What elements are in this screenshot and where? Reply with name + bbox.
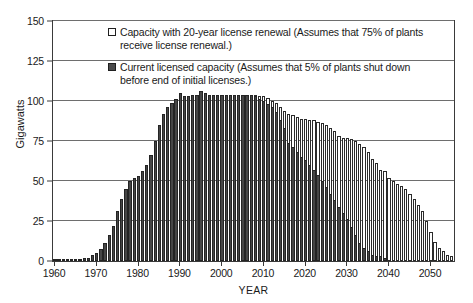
bar-current: [296, 152, 299, 261]
bar-current: [287, 143, 290, 261]
bar-renewal: [387, 178, 390, 261]
bar-renewal: [450, 256, 453, 261]
legend-renewal-line1: Capacity with 20-year license renewal (A…: [120, 26, 393, 38]
bar-current: [266, 104, 269, 261]
bar-current: [83, 258, 86, 261]
bar-current: [183, 96, 186, 261]
filled-square-icon: [108, 63, 116, 71]
bar-current: [241, 95, 244, 261]
bar-renewal: [396, 184, 399, 261]
bar-renewal: [433, 242, 436, 261]
x-tick-mark: [138, 262, 139, 266]
bar-current: [124, 189, 127, 261]
bar-current: [133, 178, 136, 261]
bar-current: [66, 259, 69, 261]
bar-current: [312, 170, 315, 261]
bar-current: [354, 235, 357, 261]
bar-current: [237, 95, 240, 261]
bar-current: [62, 259, 65, 261]
bar-current: [321, 181, 324, 261]
bar-current: [112, 226, 115, 261]
bar-renewal: [379, 170, 382, 261]
y-tick-label: 0: [38, 255, 44, 267]
bar-current: [346, 219, 349, 261]
bar-current: [87, 258, 90, 261]
bar-current: [271, 107, 274, 261]
bar-current: [229, 95, 232, 261]
y-tick-label: 75: [33, 135, 44, 147]
bar-current: [179, 93, 182, 261]
bar-current: [204, 93, 207, 261]
bar-current: [57, 259, 60, 261]
bar-current: [166, 107, 169, 261]
bar-current: [208, 95, 211, 261]
bar-current: [358, 243, 361, 261]
bar-current: [233, 95, 236, 261]
bar-current: [162, 114, 165, 261]
bar-current: [78, 259, 81, 261]
bar-current: [187, 96, 190, 261]
bar-renewal: [421, 211, 424, 261]
x-tick-label: 2050: [419, 267, 442, 279]
chart-legend: Capacity with 20-year license renewal (A…: [108, 26, 428, 96]
bar-renewal: [400, 186, 403, 261]
x-tick-mark: [305, 262, 306, 266]
bar-renewal: [375, 163, 378, 261]
x-tick-label: 2040: [377, 267, 400, 279]
bar-current: [53, 259, 56, 261]
x-tick-label: 2010: [252, 267, 275, 279]
bar-renewal: [417, 205, 420, 261]
x-tick-label: 2020: [293, 267, 316, 279]
legend-current-line2: before end of initial licenses.): [120, 74, 251, 86]
bar-current: [128, 181, 131, 261]
bar-current: [275, 112, 278, 261]
bar-current: [379, 256, 382, 261]
bar-current: [141, 171, 144, 261]
bar-current: [154, 141, 157, 261]
bar-current: [383, 258, 386, 261]
legend-label-renewal: Capacity with 20-year license renewal (A…: [120, 26, 428, 52]
x-axis-title: YEAR: [52, 284, 455, 296]
bar-current: [158, 125, 161, 261]
bar-current: [362, 248, 365, 261]
y-tick-label: 100: [27, 95, 44, 107]
bar-current: [116, 211, 119, 261]
bar-current: [191, 95, 194, 261]
bar-current: [103, 243, 106, 261]
y-tick-label: 50: [33, 175, 44, 187]
bar-current: [199, 91, 202, 261]
bar-current: [70, 259, 73, 261]
y-axis-title: Gigawatts: [14, 84, 26, 164]
legend-current-line1: Current licensed capacity (Assumes that …: [120, 61, 410, 73]
x-tick-label: 1960: [43, 267, 66, 279]
bar-current: [95, 253, 98, 261]
chart-container: Gigawatts 0255075100125150 Capacity with…: [0, 0, 473, 303]
x-tick-label: 1970: [85, 267, 108, 279]
bar-renewal: [442, 251, 445, 261]
bar-current: [342, 213, 345, 261]
bar-current: [137, 176, 140, 261]
bar-current: [74, 259, 77, 261]
x-tick-mark: [346, 262, 347, 266]
x-tick-mark: [388, 262, 389, 266]
bar-current: [250, 95, 253, 261]
bar-current: [258, 99, 261, 261]
bar-current: [325, 187, 328, 261]
x-tick-mark: [430, 262, 431, 266]
bar-current: [279, 120, 282, 261]
bar-current: [245, 95, 248, 261]
legend-item-current: Current licensed capacity (Assumes that …: [108, 61, 428, 87]
bar-current: [333, 200, 336, 261]
bar-current: [375, 256, 378, 261]
x-tick-mark: [221, 262, 222, 266]
y-tick-label: 150: [27, 15, 44, 27]
y-tick-label: 25: [33, 215, 44, 227]
legend-item-renewal: Capacity with 20-year license renewal (A…: [108, 26, 428, 52]
y-axis: Gigawatts 0255075100125150: [0, 0, 52, 283]
y-tick-label: 125: [27, 55, 44, 67]
x-tick-label: 2000: [210, 267, 233, 279]
bar-current: [174, 99, 177, 261]
bar-current: [120, 199, 123, 261]
bar-current: [195, 95, 198, 261]
bar-current: [291, 147, 294, 261]
